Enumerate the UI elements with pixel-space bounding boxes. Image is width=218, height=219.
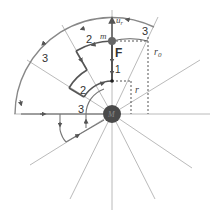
mass-m-label: m — [100, 31, 107, 41]
r-label: r — [135, 84, 139, 95]
mass-m — [108, 37, 116, 45]
force-label: F — [115, 46, 122, 60]
unit-vector-label: ur — [116, 15, 124, 26]
arrow-icon — [80, 58, 82, 61]
arrow-icon — [127, 20, 130, 21]
path-3-top-label: 3 — [142, 25, 148, 37]
path-3-outer-label: 3 — [42, 52, 48, 64]
arrow-icon — [82, 28, 85, 29]
gravitational-work-diagram: ur m F 1 2 2 3 3 3 r0 r M — [0, 0, 218, 219]
path-3-inner-label: 3 — [78, 103, 84, 115]
path-2-outer-label: 2 — [86, 33, 92, 45]
path-3-inner — [60, 89, 104, 142]
path-1-label: 1 — [115, 64, 121, 75]
arrow-icon — [20, 100, 21, 104]
path-2-inner-label: 2 — [80, 84, 86, 96]
r0-label: r0 — [154, 46, 162, 59]
mass-M-label: M — [107, 110, 116, 119]
inner-point — [110, 79, 114, 83]
